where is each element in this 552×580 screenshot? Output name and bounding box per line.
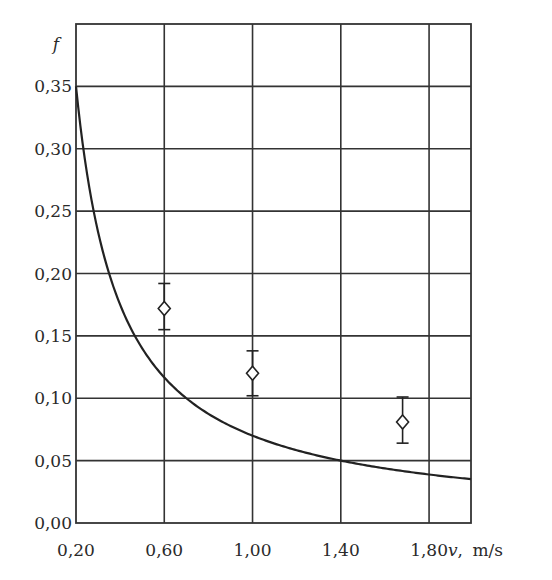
y-tick-label: 0,05 <box>34 451 72 471</box>
x-tick-label: 1,80 <box>410 540 448 560</box>
y-tick-label: 0,15 <box>34 326 72 346</box>
diamond-marker-icon <box>397 415 409 429</box>
y-axis-label: f <box>51 34 62 54</box>
y-tick-label: 0,10 <box>34 388 72 408</box>
data-point <box>397 397 409 443</box>
x-axis-ticks: 0,200,601,001,401,80 <box>57 540 448 560</box>
model-curve-path <box>76 86 471 479</box>
x-axis-unit: m/s <box>472 540 503 560</box>
data-point <box>158 283 170 329</box>
x-axis-label: v, m/s <box>448 540 503 560</box>
y-tick-label: 0,20 <box>34 264 72 284</box>
y-tick-label: 0,00 <box>34 513 72 533</box>
friction-velocity-chart: 0,000,050,100,150,200,250,300,35 0,200,6… <box>0 0 552 580</box>
y-tick-label: 0,25 <box>34 201 72 221</box>
data-point <box>247 351 259 396</box>
grid <box>76 24 471 523</box>
x-axis-variable: v <box>448 540 458 560</box>
model-curve <box>76 86 471 479</box>
y-axis-ticks: 0,000,050,100,150,200,250,300,35 <box>34 76 72 533</box>
data-points <box>158 283 408 443</box>
y-tick-label: 0,35 <box>34 76 72 96</box>
diamond-marker-icon <box>158 301 170 315</box>
x-tick-label: 1,00 <box>234 540 272 560</box>
x-tick-label: 1,40 <box>322 540 360 560</box>
x-tick-label: 0,60 <box>145 540 183 560</box>
diamond-marker-icon <box>247 366 259 380</box>
x-tick-label: 0,20 <box>57 540 95 560</box>
y-tick-label: 0,30 <box>34 139 72 159</box>
